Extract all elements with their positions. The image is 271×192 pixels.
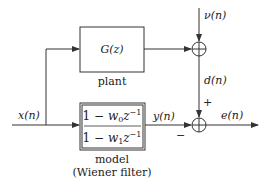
noise-summing-junction	[192, 42, 206, 56]
plus-sign: +	[203, 96, 212, 109]
desired-signal-label: d(n)	[204, 74, 227, 87]
plant-label: plant	[98, 75, 127, 88]
input-branch-to-plant	[46, 49, 79, 125]
wiener-filter-block-diagram: x(n) G(z) plant ν(n) d(n) + 1 − w0z−1 1 …	[0, 0, 271, 192]
plant-transfer-function: G(z)	[100, 43, 123, 56]
error-signal-label: e(n)	[221, 109, 243, 122]
model-output-label: y(n)	[152, 110, 175, 123]
error-summing-junction	[192, 118, 206, 132]
minus-sign: −	[176, 129, 185, 142]
model-sublabel: (Wiener filter)	[72, 166, 151, 179]
noise-label: ν(n)	[204, 9, 226, 22]
input-signal-label: x(n)	[18, 109, 40, 122]
model-label: model	[95, 153, 130, 166]
